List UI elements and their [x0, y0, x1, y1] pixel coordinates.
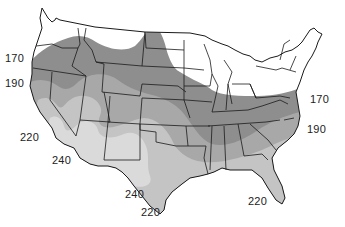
contour-label-sw-220: 220 [20, 132, 39, 143]
contour-label-east-190: 190 [307, 124, 326, 135]
contour-label-tx-220: 220 [141, 207, 160, 218]
contour-label-gulf-220: 220 [248, 196, 267, 207]
us-map [0, 0, 345, 227]
growing-season-zones [0, 0, 345, 227]
contour-label-west-170: 170 [5, 53, 24, 64]
contour-label-sw-240: 240 [52, 155, 71, 166]
contour-label-east-170: 170 [310, 94, 329, 105]
contour-label-west-190: 190 [5, 78, 24, 89]
contour-label-tx-240: 240 [125, 189, 144, 200]
